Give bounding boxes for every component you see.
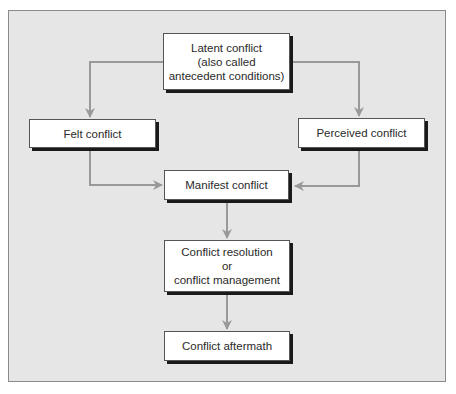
node-label: or [222,259,232,273]
node-label: Latent conflict [191,41,262,55]
node-label: Felt conflict [63,127,121,141]
node-perceived-conflict: Perceived conflict [298,118,425,148]
node-label: Conflict resolution [181,245,272,259]
node-conflict-aftermath: Conflict aftermath [164,331,290,361]
node-label: conflict management [174,273,280,287]
node-label: (also called [197,55,255,69]
node-manifest-conflict: Manifest conflict [164,170,289,200]
node-label: Perceived conflict [316,126,406,140]
node-latent-conflict: Latent conflict (also called antecedent … [163,33,290,90]
edge-latent-to-felt [90,62,163,117]
edge-latent-to-perceived [290,62,359,116]
edge-perceived-to-manifest [295,150,359,186]
node-label: Manifest conflict [185,178,267,192]
node-felt-conflict: Felt conflict [29,119,156,148]
node-conflict-resolution: Conflict resolution or conflict manageme… [164,240,290,292]
node-label: Conflict aftermath [182,339,272,353]
node-label: antecedent conditions) [169,69,285,83]
edge-felt-to-manifest [90,150,162,185]
